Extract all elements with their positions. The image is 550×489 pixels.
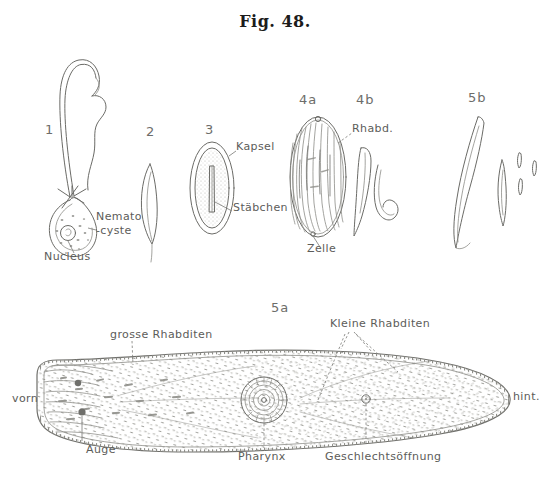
figure-4b-isolated-rhabdites xyxy=(354,148,398,236)
label-rhabd: Rhabd. xyxy=(352,122,393,135)
figure-number-4a: 4a xyxy=(299,92,317,107)
label-vorn: vorn xyxy=(12,392,38,405)
label-staebchen: Stäbchen xyxy=(233,201,288,214)
figure-plate: Fig. 48. xyxy=(0,0,550,489)
figure-number-1: 1 xyxy=(45,122,54,137)
label-nematocyste-line2: -cyste xyxy=(96,224,132,237)
label-geschlechtsoeffnung: Geschlechtsöffnung xyxy=(325,450,442,463)
label-nematocyste-line1: Nemato xyxy=(96,210,142,223)
figure-number-3: 3 xyxy=(205,122,214,137)
figure-3-capsule xyxy=(190,142,236,234)
label-nucleus: Nucleus xyxy=(44,250,91,263)
figure-5a-worm xyxy=(30,332,520,460)
label-kleine-rhabditen: Kleine Rhabditen xyxy=(330,317,430,330)
label-grosse-rhabditen: grosse Rhabditen xyxy=(110,328,213,341)
figure-2-rhabdite xyxy=(141,164,157,262)
illustration-canvas xyxy=(0,0,550,489)
figure-number-5a: 5a xyxy=(271,300,289,315)
label-hint: hint. xyxy=(513,390,540,403)
figure-number-2: 2 xyxy=(146,124,155,139)
label-kapsel: Kapsel xyxy=(236,140,275,153)
label-pharynx: Pharynx xyxy=(238,450,286,463)
figure-number-4b: 4b xyxy=(356,92,375,107)
label-zelle: Zelle xyxy=(307,242,336,255)
figure-number-5b: 5b xyxy=(468,90,487,105)
figure-4a-rhabdite-cell xyxy=(290,116,352,247)
label-auge: Auge xyxy=(86,443,116,456)
figure-5b-rhabdites xyxy=(454,117,537,249)
